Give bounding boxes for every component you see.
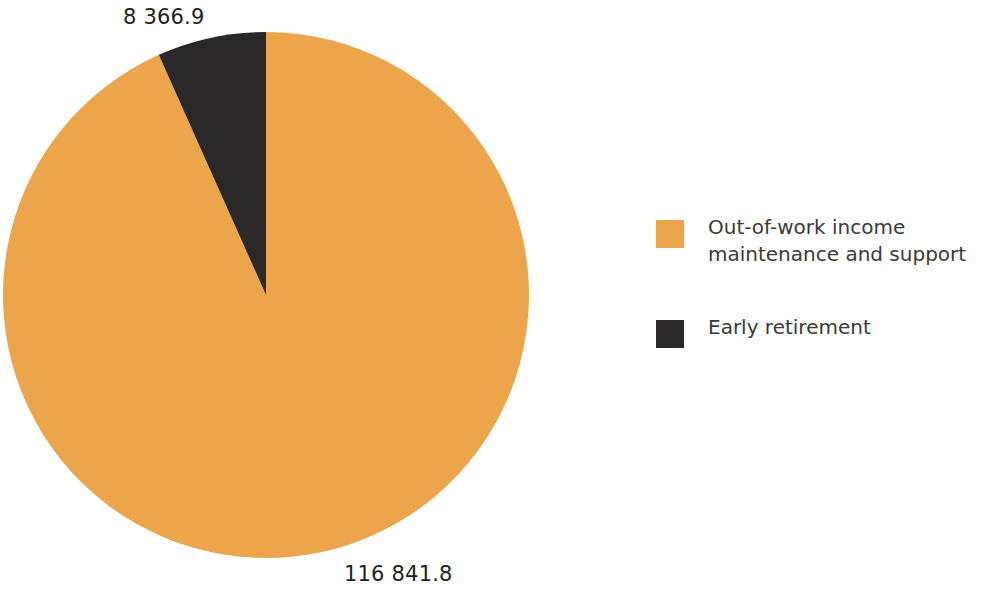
chart-legend: Out-of-work income maintenance and suppo… bbox=[656, 214, 987, 394]
legend-item-out-of-work[interactable]: Out-of-work income maintenance and suppo… bbox=[656, 214, 987, 268]
legend-item-early-retirement[interactable]: Early retirement bbox=[656, 314, 987, 348]
legend-swatch-early-retirement-icon bbox=[656, 320, 684, 348]
legend-label-early-retirement: Early retirement bbox=[708, 314, 871, 341]
pie-label-out-of-work: 116 841.8 bbox=[344, 562, 453, 586]
legend-label-out-of-work: Out-of-work income maintenance and suppo… bbox=[708, 214, 983, 268]
legend-swatch-out-of-work-icon bbox=[656, 220, 684, 248]
pie-label-early-retirement: 8 366.9 bbox=[123, 5, 205, 29]
pie-chart-figure: 8 366.9 116 841.8 Out-of-work income mai… bbox=[0, 0, 987, 590]
pie-slices bbox=[3, 32, 529, 558]
